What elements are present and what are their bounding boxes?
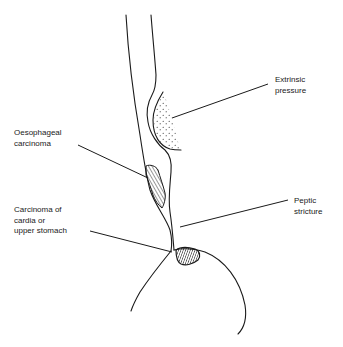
leader-oesophageal-carcinoma bbox=[78, 145, 148, 178]
label-line: Extrinsic bbox=[275, 75, 306, 86]
cardia-carcinoma-lesion bbox=[176, 248, 200, 265]
label-line: stricture bbox=[294, 207, 322, 218]
label-line: Carcinoma of bbox=[14, 205, 67, 216]
oesophagus-diagram bbox=[0, 0, 343, 347]
label-line: upper stomach bbox=[14, 226, 67, 237]
leader-cardia-carcinoma bbox=[90, 231, 172, 252]
label-line: Oesophageal bbox=[14, 128, 62, 139]
label-oesophageal-carcinoma: Oesophageal carcinoma bbox=[14, 128, 62, 149]
label-peptic-stricture: Peptic stricture bbox=[294, 196, 322, 217]
label-line: carcinoma bbox=[14, 139, 62, 150]
leader-extrinsic-pressure bbox=[172, 84, 268, 118]
leader-peptic-stricture bbox=[180, 200, 288, 227]
label-line: Peptic bbox=[294, 196, 322, 207]
label-carcinoma-cardia: Carcinoma of cardia or upper stomach bbox=[14, 205, 67, 237]
stomach-left-wall bbox=[131, 251, 171, 311]
label-line: pressure bbox=[275, 86, 306, 97]
label-extrinsic-pressure: Extrinsic pressure bbox=[275, 75, 306, 96]
label-line: cardia or bbox=[14, 216, 67, 227]
